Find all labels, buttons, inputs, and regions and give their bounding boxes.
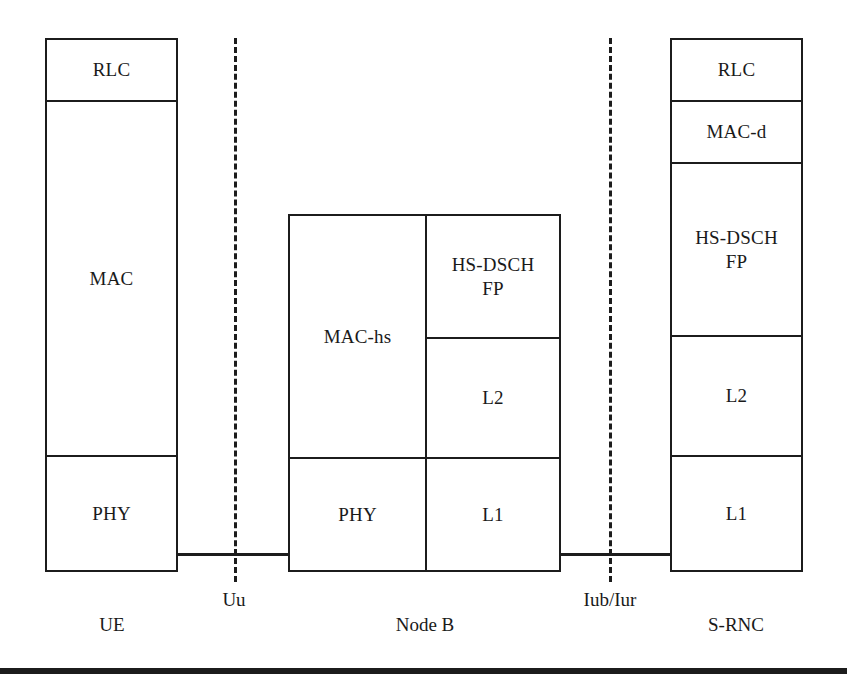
- protocol-stack-figure: RLC MAC PHY Uu MAC-hs HS-DSCH FP L2 PHY …: [0, 0, 847, 679]
- layer-srnc-hs-dsch-fp: HS-DSCH FP: [672, 162, 801, 335]
- interface-line-uu: [234, 38, 237, 582]
- interface-label-uu: Uu: [222, 589, 245, 611]
- stack-ue: RLC MAC PHY: [45, 38, 178, 572]
- bottom-divider-rule: [0, 668, 847, 674]
- connector-nodeb-srnc: [561, 553, 670, 556]
- layer-nodeb-l2: L2: [425, 337, 559, 457]
- layer-srnc-mac-d: MAC-d: [672, 100, 801, 162]
- caption-ue: UE: [99, 614, 124, 636]
- caption-node-b: Node B: [396, 614, 455, 636]
- layer-srnc-l1: L1: [672, 455, 801, 570]
- connector-ue-nodeb: [178, 553, 288, 556]
- layer-srnc-l2: L2: [672, 335, 801, 455]
- layer-nodeb-phy: PHY: [290, 457, 425, 570]
- layer-ue-mac: MAC: [47, 100, 176, 455]
- layer-ue-rlc: RLC: [47, 40, 176, 100]
- interface-line-iub-iur: [609, 38, 612, 582]
- stack-node-b: MAC-hs HS-DSCH FP L2 PHY L1: [288, 214, 561, 572]
- caption-s-rnc: S-RNC: [708, 614, 764, 636]
- layer-nodeb-hs-dsch-fp: HS-DSCH FP: [425, 216, 559, 337]
- layer-nodeb-l1: L1: [425, 457, 559, 570]
- stack-s-rnc: RLC MAC-d HS-DSCH FP L2 L1: [670, 38, 803, 572]
- layer-srnc-rlc: RLC: [672, 40, 801, 100]
- layer-nodeb-mac-hs: MAC-hs: [290, 216, 425, 457]
- layer-ue-phy: PHY: [47, 455, 176, 570]
- interface-label-iub-iur: Iub/Iur: [584, 589, 637, 611]
